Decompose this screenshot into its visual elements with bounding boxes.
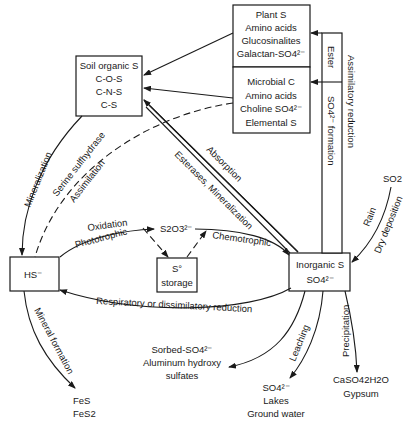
svg-text:Dry deposition: Dry deposition <box>372 194 405 254</box>
microbial-to-soil-organic-arrow <box>144 88 233 98</box>
svg-text:Lakes: Lakes <box>263 395 289 406</box>
svg-text:Galactan-SO4²⁻: Galactan-SO4²⁻ <box>237 48 305 59</box>
svg-text:Ground water: Ground water <box>247 408 305 419</box>
svg-text:Amino acids: Amino acids <box>245 90 297 101</box>
svg-text:SO4²⁻: SO4²⁻ <box>262 382 289 393</box>
s-storage-box: S° storage <box>157 258 197 292</box>
svg-text:Leaching: Leaching <box>287 323 312 363</box>
svg-text:Soil organic S: Soil organic S <box>80 60 139 71</box>
svg-text:Microbial C: Microbial C <box>247 76 295 87</box>
svg-text:sulfates: sulfates <box>166 370 199 381</box>
svg-text:Rain: Rain <box>361 206 379 228</box>
svg-text:Elemental S: Elemental S <box>245 117 296 128</box>
svg-text:Sorbed-SO4²⁻: Sorbed-SO4²⁻ <box>152 344 213 355</box>
plant-s-box: Plant S Amino acids Glucosinalites Galac… <box>233 5 310 67</box>
inorganic-s-box: Inorganic S SO4²⁻ <box>289 253 350 291</box>
svg-text:Esterases, Mineralization: Esterases, Mineralization <box>173 149 256 232</box>
svg-text:Plant S: Plant S <box>256 9 287 20</box>
svg-text:Inorganic S: Inorganic S <box>296 259 344 270</box>
hs-box: HS⁻ <box>10 257 59 291</box>
assimilatory-reduction-label: Assimilatory reduction <box>346 55 357 148</box>
svg-text:C-N-S: C-N-S <box>96 86 122 97</box>
svg-text:SO4²⁻: SO4²⁻ <box>306 274 333 285</box>
svg-text:C-O-S: C-O-S <box>96 73 123 84</box>
plant-to-soil-organic-arrow <box>144 33 233 75</box>
svg-text:FeS2: FeS2 <box>73 408 96 419</box>
microbial-c-box: Microbial C Amino acids Choline SO4²⁻ El… <box>233 67 310 133</box>
svg-text:Choline SO4²⁻: Choline SO4²⁻ <box>240 103 302 114</box>
svg-text:Mineralization: Mineralization <box>22 150 54 208</box>
svg-text:Chemotrophic: Chemotrophic <box>212 229 272 248</box>
so2-label: SO2 <box>383 173 402 184</box>
svg-text:CaSO42H2O: CaSO42H2O <box>333 374 389 385</box>
dashed-from-storage <box>187 231 206 257</box>
thiosulfate-label: S2O3²⁻ <box>160 223 192 234</box>
ester-so4-column: Ester SO4²⁻ formation <box>311 33 342 253</box>
svg-text:Amino acids: Amino acids <box>245 22 297 33</box>
svg-text:storage: storage <box>161 277 193 288</box>
svg-text:Ester: Ester <box>326 46 337 68</box>
svg-text:Gypsum: Gypsum <box>343 388 378 399</box>
svg-text:Precipitation: Precipitation <box>340 305 351 357</box>
svg-text:Aluminum hydroxy: Aluminum hydroxy <box>143 357 221 368</box>
soil-organic-s-box: Soil organic S C-O-S C-N-S C-S <box>76 56 142 116</box>
svg-text:HS⁻: HS⁻ <box>24 269 42 280</box>
svg-text:C-S: C-S <box>101 99 117 110</box>
sulfur-cycle-diagram: Plant S Amino acids Glucosinalites Galac… <box>0 0 409 423</box>
svg-text:SO4²⁻ formation: SO4²⁻ formation <box>326 96 337 165</box>
svg-text:Respiratory or dissimilatory r: Respiratory or dissimilatory reduction <box>96 295 253 314</box>
svg-text:S°: S° <box>172 263 182 274</box>
svg-text:FeS: FeS <box>73 395 90 406</box>
svg-text:Glucosinalites: Glucosinalites <box>241 35 300 46</box>
